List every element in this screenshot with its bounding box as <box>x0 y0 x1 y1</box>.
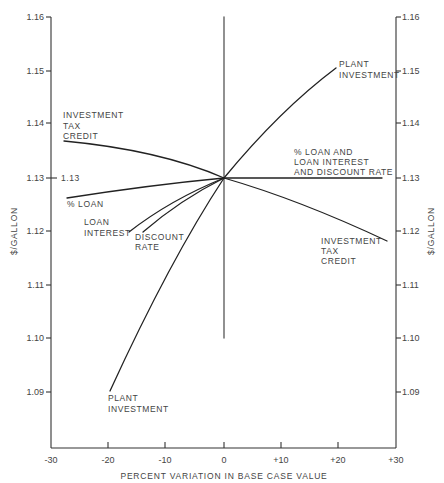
annotation-itc-left: INVESTMENT TAX CREDIT <box>63 110 124 141</box>
annotation-pct-loan: % LOAN <box>67 199 104 209</box>
svg-text:+20: +20 <box>330 455 345 465</box>
svg-text:-10: -10 <box>158 455 171 465</box>
sensitivity-chart: 1.16 1.15 1.14 1.13 1.12 1.11 1.10 1.09 … <box>0 0 444 483</box>
x-axis-title: PERCENT VARIATION IN BASE CASE VALUE <box>120 471 327 481</box>
svg-text:AND DISCOUNT RATE: AND DISCOUNT RATE <box>294 167 393 177</box>
svg-text:INVESTMENT: INVESTMENT <box>108 404 169 414</box>
svg-text:1.15: 1.15 <box>402 66 420 76</box>
svg-text:% LOAN AND: % LOAN AND <box>294 147 353 157</box>
annotation-plant-left: PLANT INVESTMENT <box>108 393 169 414</box>
svg-text:1.13: 1.13 <box>26 173 44 183</box>
svg-text:PLANT: PLANT <box>108 393 138 403</box>
svg-text:1.16: 1.16 <box>402 12 420 22</box>
svg-text:1.14: 1.14 <box>26 118 44 128</box>
svg-text:1.10: 1.10 <box>402 333 420 343</box>
left-y-ticks <box>46 17 51 392</box>
svg-text:CREDIT: CREDIT <box>321 256 356 266</box>
svg-text:PLANT: PLANT <box>339 59 369 69</box>
svg-text:LOAN: LOAN <box>84 217 110 227</box>
svg-text:1.14: 1.14 <box>402 118 420 128</box>
y-axis-title-right: $/GALLON <box>426 207 436 255</box>
annotation-plant-right: PLANT INVESTMENT <box>339 59 400 80</box>
svg-text:1.11: 1.11 <box>27 280 44 290</box>
svg-text:1.15: 1.15 <box>26 66 44 76</box>
svg-text:-30: -30 <box>44 455 57 465</box>
svg-text:1.11: 1.11 <box>402 280 419 290</box>
svg-text:+30: +30 <box>388 455 403 465</box>
svg-text:1.09: 1.09 <box>402 387 420 397</box>
annotation-itc-right: INVESTMENT TAX CREDIT <box>321 236 382 266</box>
svg-text:LOAN INTEREST: LOAN INTEREST <box>294 157 369 167</box>
y-axis-title-left: $/GALLON <box>9 207 19 255</box>
svg-text:TAX: TAX <box>63 121 81 131</box>
svg-text:-20: -20 <box>101 455 114 465</box>
svg-text:1.12: 1.12 <box>402 226 420 236</box>
svg-text:1.10: 1.10 <box>26 333 44 343</box>
svg-text:+10: +10 <box>273 455 288 465</box>
svg-text:INTEREST: INTEREST <box>84 228 131 238</box>
svg-text:1.13: 1.13 <box>402 173 420 183</box>
svg-text:INVESTMENT: INVESTMENT <box>339 70 400 80</box>
svg-text:RATE: RATE <box>135 242 159 252</box>
x-ticks <box>108 442 338 448</box>
svg-text:INVESTMENT: INVESTMENT <box>321 236 382 246</box>
svg-text:DISCOUNT: DISCOUNT <box>135 232 184 242</box>
svg-text:CREDIT: CREDIT <box>63 131 98 141</box>
annotation-loan-interest: LOAN INTEREST <box>84 217 131 238</box>
annotation-combined-right: % LOAN AND LOAN INTEREST AND DISCOUNT RA… <box>294 147 393 177</box>
svg-text:0: 0 <box>221 455 226 465</box>
svg-text:TAX: TAX <box>321 246 339 256</box>
series-plant-investment <box>110 68 336 391</box>
annotation-discount-rate: DISCOUNT RATE <box>135 232 184 252</box>
svg-text:1.16: 1.16 <box>26 12 44 22</box>
annotation-base-value: 1.13 <box>61 173 80 183</box>
left-y-tick-labels: 1.16 1.15 1.14 1.13 1.12 1.11 1.10 1.09 <box>26 12 44 397</box>
right-y-tick-labels: 1.16 1.15 1.14 1.13 1.12 1.11 1.10 1.09 <box>402 12 420 397</box>
svg-text:1.09: 1.09 <box>26 387 44 397</box>
svg-text:1.12: 1.12 <box>26 226 44 236</box>
x-tick-labels: -30 -20 -10 0 +10 +20 +30 <box>44 455 403 465</box>
svg-text:INVESTMENT: INVESTMENT <box>63 110 124 120</box>
